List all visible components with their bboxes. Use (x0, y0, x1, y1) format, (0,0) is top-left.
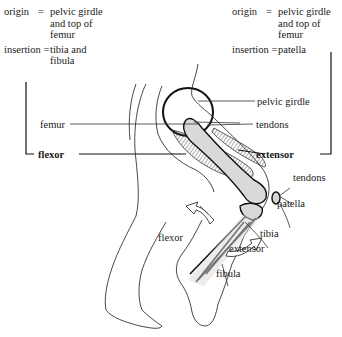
extensor-main-label: extensor (256, 149, 294, 160)
extensor-insertion-label: insertion = (232, 44, 278, 56)
extensor-origin-value: pelvic girdle (278, 6, 331, 18)
flexor-main-label: flexor (38, 149, 64, 160)
extensor-insertion-value: patella (278, 44, 306, 56)
tendons-top-label: tendons (256, 119, 289, 130)
flexor-arrow-icon (186, 202, 214, 224)
flexor-bracket (26, 82, 186, 154)
patella-label: patella (277, 198, 305, 209)
flexor-origin-label: origin (4, 6, 38, 18)
flexor-insertion-label: insertion = (4, 44, 50, 56)
pelvic-girdle-label: pelvic girdle (257, 96, 310, 107)
tibia-label: tibia (260, 228, 279, 239)
flexor-origin-value: pelvic girdle (50, 6, 103, 18)
back-leg-outline (105, 84, 166, 328)
extensor-origin-label: origin (232, 6, 266, 18)
extensor-arrow-label: extensor (229, 243, 265, 254)
flexor-arrow-label: flexor (158, 232, 183, 243)
fibula-label: fibula (216, 268, 241, 279)
extensor-definition: origin=pelvic girdle and top of femur in… (232, 6, 331, 55)
tendons-knee-label: tendons (293, 172, 326, 183)
flexor-insertion-value: tibia and (50, 44, 86, 56)
femur-label: femur (40, 119, 65, 130)
flexor-definition: origin=pelvic girdle and top of femur in… (4, 6, 103, 67)
